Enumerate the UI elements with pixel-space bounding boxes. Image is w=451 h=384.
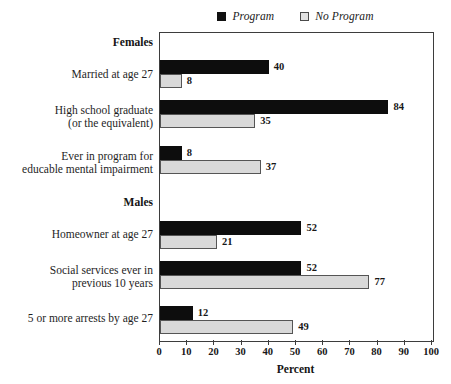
x-axis-tick <box>213 340 214 345</box>
x-axis-tick <box>241 340 242 345</box>
x-axis-tick-label: 0 <box>156 346 161 357</box>
x-axis-tick-label: 60 <box>317 346 328 357</box>
x-axis-title: Percent <box>159 363 432 375</box>
bar-value-males-homeowner-no-program: 21 <box>222 235 233 249</box>
bar-value-females-married-program: 40 <box>274 60 285 74</box>
bar-males-homeowner-no-program <box>160 235 217 249</box>
bar-value-males-socialsvc-no-program: 77 <box>374 275 385 289</box>
category-label-married-at-age-27: Married at age 27 <box>0 68 153 81</box>
x-axis-tick <box>431 340 432 345</box>
bar-value-males-homeowner-program: 52 <box>306 221 317 235</box>
category-label-5-or-more-arrests: 5 or more arrests by age 27 <box>0 312 153 325</box>
x-axis-tick <box>377 340 378 345</box>
label-line: 5 or more arrests by age 27 <box>0 312 153 325</box>
group-label-males: Males <box>0 196 153 208</box>
legend-label-program: Program <box>232 10 274 22</box>
x-axis: 0102030405060708090100 Percent <box>159 340 434 384</box>
bar-females-hsgrad-program <box>160 100 388 114</box>
label-line: Social services ever in <box>0 264 153 277</box>
legend-swatch-program-icon <box>217 12 226 21</box>
category-label-homeowner-at-age-27: Homeowner at age 27 <box>0 228 153 241</box>
label-line: Married at age 27 <box>0 68 153 81</box>
legend-label-no-program: No Program <box>315 10 373 22</box>
bar-males-socialsvc-no-program <box>160 275 369 289</box>
bars-layer: 40 8 84 35 8 37 52 21 52 77 12 49 <box>160 33 433 341</box>
bar-males-arrests-program <box>160 306 193 320</box>
category-label-high-school-graduate: High school graduate (or the equivalent) <box>0 104 153 130</box>
bar-chart: Program No Program Females Married at ag… <box>0 0 451 384</box>
x-axis-tick-label: 100 <box>423 346 439 357</box>
x-axis-tick <box>159 340 160 345</box>
label-line: High school graduate <box>0 104 153 117</box>
label-line: Homeowner at age 27 <box>0 228 153 241</box>
x-axis-tick-label: 30 <box>235 346 246 357</box>
bar-value-females-married-no-program: 8 <box>187 74 192 88</box>
x-axis-tick-label: 20 <box>208 346 219 357</box>
label-line: Ever in program for <box>0 150 153 163</box>
x-axis-tick <box>404 340 405 345</box>
category-label-ever-in-program-emi: Ever in program for educable mental impa… <box>0 150 153 176</box>
bar-value-males-arrests-program: 12 <box>198 306 209 320</box>
bar-males-arrests-no-program <box>160 320 293 334</box>
legend-swatch-no-program-icon <box>300 12 309 21</box>
bar-value-females-hsgrad-no-program: 35 <box>260 114 271 128</box>
bar-males-socialsvc-program <box>160 261 301 275</box>
x-axis-tick <box>268 340 269 345</box>
x-axis-tick-label: 70 <box>344 346 355 357</box>
x-axis-tick <box>295 340 296 345</box>
label-line: (or the equivalent) <box>0 117 153 130</box>
x-axis-tick <box>322 340 323 345</box>
bar-value-males-socialsvc-program: 52 <box>306 261 317 275</box>
x-axis-tick <box>186 340 187 345</box>
bar-females-married-program <box>160 60 269 74</box>
category-labels: Females Married at age 27 High school gr… <box>0 0 153 384</box>
bar-females-hsgrad-no-program <box>160 114 255 128</box>
x-axis-tick-label: 80 <box>371 346 382 357</box>
x-axis-tick-label: 50 <box>290 346 301 357</box>
bar-value-females-hsgrad-program: 84 <box>393 100 404 114</box>
x-axis-tick-label: 90 <box>399 346 410 357</box>
x-axis-tick-label: 40 <box>263 346 274 357</box>
label-line: previous 10 years <box>0 277 153 290</box>
bar-females-emi-program <box>160 146 182 160</box>
bar-value-females-emi-program: 8 <box>187 146 192 160</box>
x-axis-tick <box>349 340 350 345</box>
category-label-social-services: Social services ever in previous 10 year… <box>0 264 153 290</box>
legend-item-program: Program <box>217 10 274 22</box>
bar-males-homeowner-program <box>160 221 301 235</box>
bar-value-males-arrests-no-program: 49 <box>298 320 309 334</box>
group-label-females: Females <box>0 36 153 48</box>
bar-females-emi-no-program <box>160 160 261 174</box>
x-axis-tick-label: 10 <box>181 346 192 357</box>
legend-item-no-program: No Program <box>300 10 373 22</box>
label-line: educable mental impairment <box>0 163 153 176</box>
bar-value-females-emi-no-program: 37 <box>266 160 277 174</box>
bar-females-married-no-program <box>160 74 182 88</box>
chart-legend: Program No Program <box>159 6 432 26</box>
